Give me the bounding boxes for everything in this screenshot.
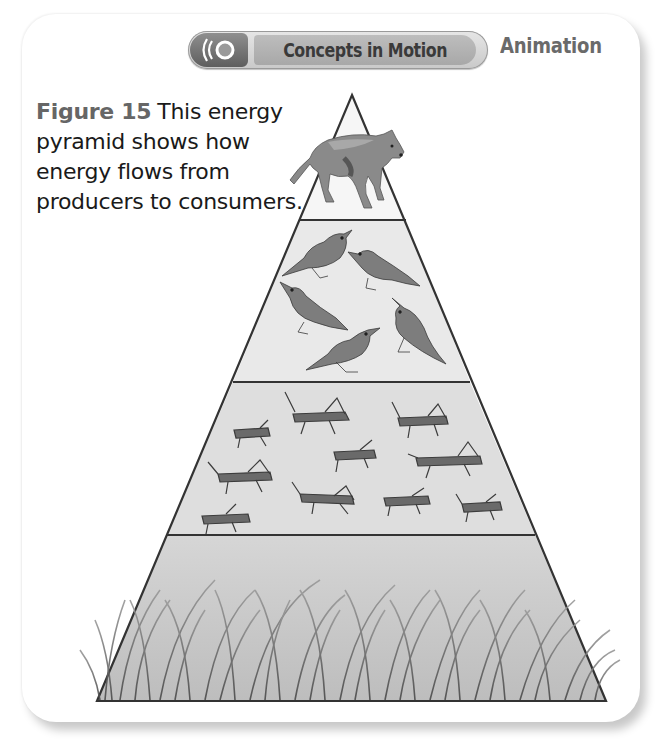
energy-pyramid (0, 0, 672, 748)
